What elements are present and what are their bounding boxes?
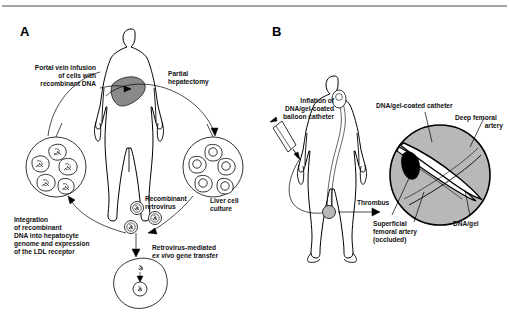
superficial-label-line-1: Superficial bbox=[373, 220, 407, 228]
hepatocyte-cultured-3 bbox=[218, 158, 235, 175]
balloon-body bbox=[332, 90, 346, 108]
balloon-catheter-inflated bbox=[332, 90, 346, 108]
integration-label-line-2: of recombinant bbox=[14, 224, 62, 231]
hepatectomy-label-line-1: Partial bbox=[168, 70, 188, 77]
panel-a-letter: A bbox=[20, 24, 30, 39]
retrovirus-particle-1 bbox=[131, 202, 144, 215]
culture-label-line-1: Liver cell bbox=[210, 197, 239, 204]
transfer-label-rest: gene transfer bbox=[174, 252, 218, 260]
superficial-label-line-2: femoral artery bbox=[373, 228, 417, 236]
deep-femoral-label-line-2: artery bbox=[485, 122, 504, 130]
integration-label-line-1: Integration bbox=[14, 216, 48, 224]
retrovirus-particle-2 bbox=[149, 212, 162, 225]
label-dna-gel: DNA/gel bbox=[453, 220, 479, 228]
target-hepatocyte bbox=[114, 258, 168, 308]
hepatocyte-transduced-3 bbox=[59, 158, 77, 175]
hepatocyte-transduced-5 bbox=[58, 178, 74, 194]
hepatocyte-cultured-2 bbox=[189, 156, 206, 173]
retrovirus-label-line-2: retrovirus bbox=[145, 203, 176, 210]
superficial-label-line-3: (occluded) bbox=[373, 236, 406, 244]
inflation-label-line-3: balloon catheter bbox=[283, 113, 334, 120]
deep-femoral-label-line-1: Deep femoral bbox=[455, 114, 497, 122]
figure-root: A bbox=[0, 0, 509, 324]
integration-label-line-5: of the LDL receptor bbox=[14, 248, 75, 256]
transfer-label-italic: ex vivo bbox=[152, 252, 174, 259]
inflation-label-line-1: Inflation of bbox=[300, 97, 334, 104]
integrated-dna-nucleus bbox=[133, 282, 147, 296]
portal-label-line-3: recombinant DNA bbox=[40, 80, 96, 87]
hepatocyte-cultured-5 bbox=[217, 178, 233, 194]
portal-label-line-1: Portal vein infusion bbox=[35, 64, 96, 71]
femoral-injury-site-marker bbox=[323, 206, 336, 219]
retrovirus-label-line-1: Recombinant bbox=[145, 195, 188, 202]
hepatocyte-cultured-1 bbox=[205, 144, 222, 161]
inflation-label-line-2: DNA/gel-coated bbox=[285, 105, 334, 113]
integration-label-line-4: genome and expression bbox=[14, 240, 89, 248]
transfer-label-line-2: ex vivo gene transfer bbox=[152, 252, 218, 260]
retrovirus-particle-3 bbox=[125, 221, 138, 234]
artery-cross-section-inset bbox=[390, 125, 490, 225]
portal-label-line-2: of cells with bbox=[58, 72, 96, 79]
hepatocyte-cultured-4 bbox=[195, 175, 212, 192]
hepatocyte-transduced-4 bbox=[37, 174, 55, 191]
hepatocyte-transduced-2 bbox=[32, 156, 49, 172]
label-thrombus: Thrombus bbox=[357, 199, 390, 206]
transfer-label-line-1: Retrovirus-mediated bbox=[152, 244, 216, 251]
culture-label-line-2: culture bbox=[210, 205, 232, 212]
hepatectomy-label-line-2: hepatectomy bbox=[168, 78, 209, 86]
label-retrovirus-mediated-transfer: Retrovirus-mediated ex vivo gene transfe… bbox=[152, 244, 218, 260]
integration-label-line-3: DNA into hepatocyte bbox=[14, 232, 79, 240]
panel-b-letter: B bbox=[272, 24, 281, 39]
hepatocyte-transduced-1 bbox=[49, 144, 66, 160]
label-dna-gel-coated-catheter: DNA/gel-coated catheter bbox=[376, 102, 453, 110]
